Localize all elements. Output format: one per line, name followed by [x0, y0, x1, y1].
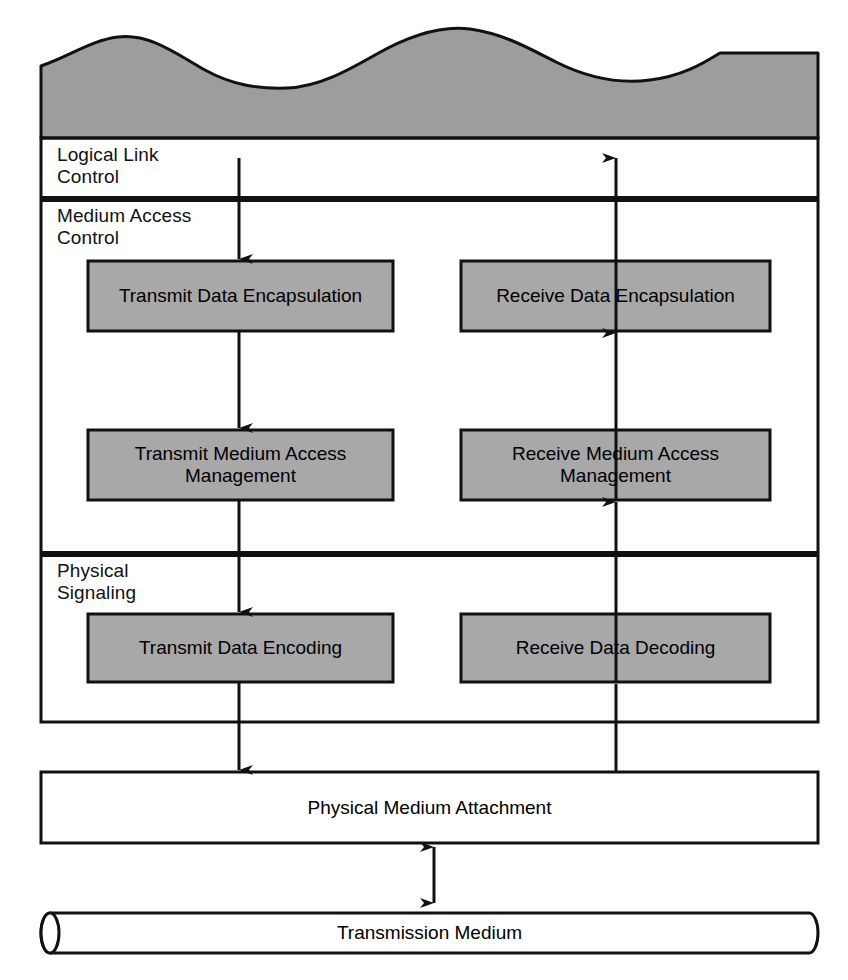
block-label-text: Receive Medium Access Management [461, 443, 770, 487]
block-label-text: Transmission Medium [337, 922, 522, 944]
block-label-receive-data-decoding: Receive Data Decoding [461, 614, 770, 682]
layer-label-physical-signaling: Physical Signaling [57, 560, 136, 604]
block-label-text: Receive Data Decoding [516, 637, 716, 659]
block-label-text: Transmit Data Encoding [139, 637, 342, 659]
layer-label-medium-access-control: Medium Access Control [57, 205, 191, 249]
block-label-text: Physical Medium Attachment [308, 797, 552, 819]
block-label-receive-data-encapsulation: Receive Data Encapsulation [461, 261, 770, 331]
block-label-physical-medium-attachment: Physical Medium Attachment [41, 772, 818, 843]
block-label-text: Transmit Medium Access Management [88, 443, 393, 487]
block-label-transmit-medium-access-management: Transmit Medium Access Management [88, 430, 393, 500]
block-label-transmission-medium: Transmission Medium [50, 913, 809, 953]
block-label-transmit-data-encapsulation: Transmit Data Encapsulation [88, 261, 393, 331]
block-label-receive-medium-access-management: Receive Medium Access Management [461, 430, 770, 500]
layer-label-logical-link-control: Logical Link Control [57, 144, 159, 188]
upper-layers-wave-shape [41, 28, 818, 138]
block-label-text: Transmit Data Encapsulation [119, 285, 362, 307]
block-label-transmit-data-encoding: Transmit Data Encoding [88, 614, 393, 682]
block-label-text: Receive Data Encapsulation [496, 285, 735, 307]
diagram-canvas: Logical Link Control Medium Access Contr… [0, 0, 848, 980]
